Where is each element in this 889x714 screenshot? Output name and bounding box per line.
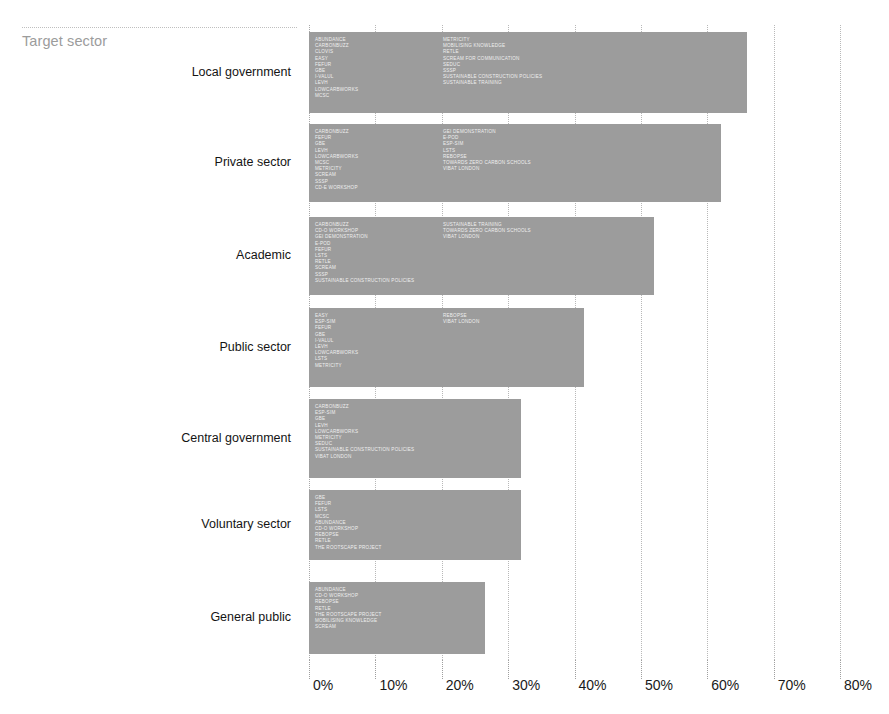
x-tick-label-80: 80% [844,677,872,693]
x-tick-label-40: 40% [579,677,607,693]
bar-private-sector[interactable] [309,124,721,202]
x-tick-line [309,660,310,679]
bar-row: ABUNDANCECARBONBUZZCLOVISEASYFEFURGBEI-V… [309,32,840,113]
category-label-public-sector: Public sector [219,340,291,354]
bar-row: CARBONBUZZESP-SIMGBELEVHLOWCARBWORKSMETR… [309,399,840,478]
x-tick-label-60: 60% [711,677,739,693]
header-divider [22,27,297,28]
bar-voluntary-sector[interactable] [309,490,521,560]
plot-area: ABUNDANCECARBONBUZZCLOVISEASYFEFURGBEI-V… [309,25,840,660]
x-tick-line [375,660,376,679]
bar-local-government[interactable] [309,32,747,113]
x-tick-label-20: 20% [446,677,474,693]
x-tick-label-30: 30% [512,677,540,693]
x-tick-label-10: 10% [379,677,407,693]
gridline-80 [840,25,841,660]
bar-general-public[interactable] [309,582,485,654]
category-label-general-public: General public [210,610,291,624]
x-tick-line [442,660,443,679]
x-axis: 0%10%20%30%40%50%60%70%80% [309,660,840,700]
target-sector-bar-chart: Target sector ABUNDANCECARBONBUZZCLOVISE… [0,0,889,714]
project-column [443,587,838,630]
x-tick-line [707,660,708,679]
bar-row: GBEFEFURLSTSMCSCABUNDANCECD-O WORKSHOPRE… [309,490,840,560]
bar-row: ABUNDANCECD-O WORKSHOPREBOPSERETLETHE RO… [309,582,840,654]
bar-public-sector[interactable] [309,308,584,387]
x-tick-line [508,660,509,679]
category-label-central-government: Central government [181,431,291,445]
bar-central-government[interactable] [309,399,521,478]
category-label-voluntary-sector: Voluntary sector [201,517,291,531]
category-label-private-sector: Private sector [215,155,291,169]
x-tick-line [840,660,841,679]
x-tick-line [641,660,642,679]
x-tick-line [575,660,576,679]
bar-row: EASYESP-SIMFEFURGBEI-VALULLEVHLOWCARBWOR… [309,308,840,387]
x-tick-line [774,660,775,679]
bar-academic[interactable] [309,217,654,295]
category-label-local-government: Local government [192,65,291,79]
x-tick-label-50: 50% [645,677,673,693]
bar-row: CARBONBUZZCD-O WORKSHOPGEI DEMONSTRATION… [309,217,840,295]
x-tick-label-0: 0% [313,677,333,693]
bar-row: CARBONBUZZFEFURGBELEVHLOWCARBWORKSMCSCME… [309,124,840,202]
x-tick-label-70: 70% [778,677,806,693]
category-label-academic: Academic [236,248,291,262]
page-title: Target sector [22,33,107,49]
